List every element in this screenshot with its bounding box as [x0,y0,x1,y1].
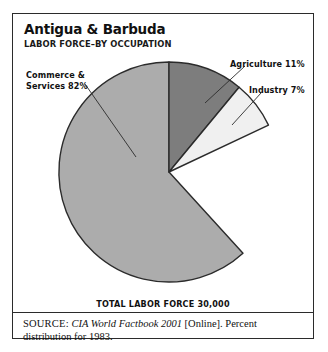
source-note: SOURCE: CIA World Factbook 2001 [Online]… [23,317,304,343]
source-label: SOURCE: [23,318,69,329]
pie-label-commerce-services-line2: Services 82% [26,81,88,92]
figure-frame: Antigua & Barbuda LABOR FORCE–BY OCCUPAT… [12,13,314,339]
pie-chart [13,14,313,304]
source-divider [13,312,313,313]
pie-label-agriculture: Agriculture 11% [230,59,305,70]
pie-label-commerce-services: Commerce & Services 82% [26,70,88,92]
total-labor-force-caption: TOTAL LABOR FORCE 30,000 [21,299,306,309]
source-work-title: CIA World Factbook 2001 [71,318,182,329]
pie-label-commerce-services-line1: Commerce & [26,70,88,81]
pie-chart-plot-area: Commerce & Services 82% Agriculture 11% … [13,14,313,304]
pie-label-industry: Industry 7% [249,85,305,96]
